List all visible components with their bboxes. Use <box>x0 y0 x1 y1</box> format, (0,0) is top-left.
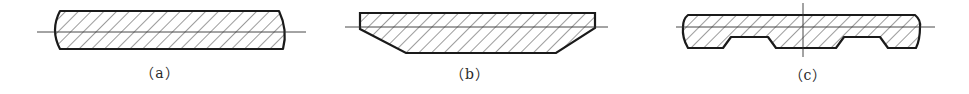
section-c-profile <box>683 15 920 48</box>
figure-c <box>676 3 935 57</box>
section-a-profile <box>55 11 285 49</box>
label-c: （c） <box>789 64 828 84</box>
label-a: （a） <box>140 62 179 82</box>
section-b-profile <box>360 13 595 53</box>
figure-a <box>37 11 306 49</box>
label-b: （b） <box>450 63 490 83</box>
figure-b <box>345 13 608 53</box>
